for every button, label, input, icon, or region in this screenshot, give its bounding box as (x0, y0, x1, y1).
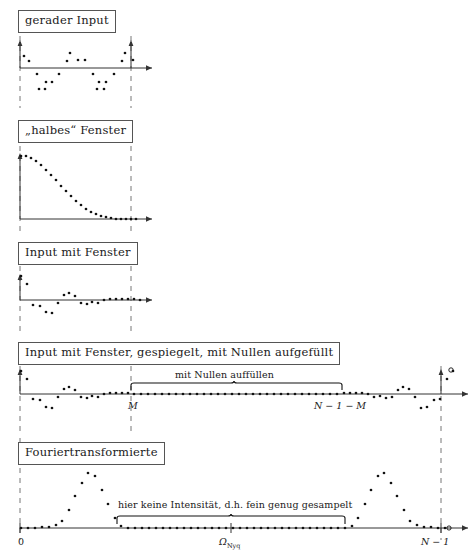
axis-marker-arrow-left-p1 (18, 40, 23, 46)
tick-label-zero: 0 (18, 536, 24, 547)
tick-label-N-1: N − 1 (421, 536, 449, 547)
omega-symbol: Ω (219, 536, 227, 547)
panel-title-input-gespiegelt-nullen: Input mit Fenster, gespiegelt, mit Nulle… (18, 342, 340, 365)
axis-marker-arrow-right-p1 (129, 40, 134, 46)
data-points-p4-left (20, 370, 130, 410)
panel-title-halbes-fenster: „halbes“ Fenster (18, 120, 133, 143)
panel-halbes-fenster (18, 146, 152, 236)
tick-label-M: M (128, 400, 138, 411)
axis-marker-arrow-right-p4 (439, 369, 444, 375)
axis-arrow-p3 (146, 297, 152, 303)
panel-input-mit-fenster (18, 266, 152, 336)
figure-canvas (0, 0, 475, 558)
brace-label-keine-intensitaet: hier keine Intensität, d.h. fein genug g… (118, 499, 352, 510)
panel-title-gerader-input: gerader Input (18, 10, 116, 33)
brace-mit-nullen (131, 381, 342, 390)
axis-arrow-p4 (462, 391, 468, 397)
panel-title-fouriertransformierte: Fouriertransformierte (18, 442, 165, 465)
brace-label-mit-nullen-auffuellen: mit Nullen auffüllen (175, 369, 274, 380)
data-points-p2 (20, 155, 138, 221)
axis-arrow-p5 (462, 525, 468, 531)
data-points-p3 (20, 275, 142, 315)
brace-keine-intensitaet (117, 514, 345, 524)
panel-title-input-mit-fenster: Input mit Fenster (18, 242, 138, 265)
data-points-p1 (23, 52, 135, 91)
panel-gerader-input (18, 36, 152, 108)
tick-label-omega-nyq: ΩNyq (219, 536, 240, 550)
omega-subscript: Nyq (227, 542, 240, 550)
signal-processing-figure: gerader Input „halbes“ Fenster Input mit… (0, 0, 475, 558)
axis-arrow-p1 (146, 65, 152, 71)
tick-label-N-1-M: N − 1 − M (314, 400, 366, 411)
axis-arrow-p2 (146, 216, 152, 222)
